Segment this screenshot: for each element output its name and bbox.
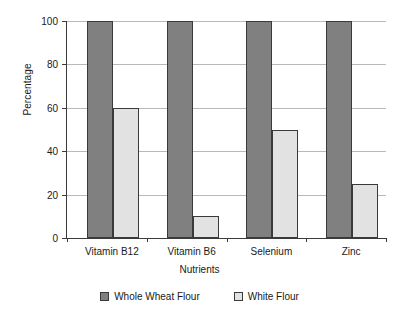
y-tick-label: 80 xyxy=(47,59,58,70)
y-tick-mark xyxy=(62,108,67,109)
x-tick-label: Vitamin B12 xyxy=(85,246,139,257)
bar-group xyxy=(246,21,298,238)
legend: Whole Wheat FlourWhite Flour xyxy=(0,291,399,302)
bar-group xyxy=(167,21,219,238)
x-tick-mark xyxy=(147,238,148,242)
bar[interactable] xyxy=(193,216,219,238)
y-tick-label: 40 xyxy=(47,146,58,157)
bar-group xyxy=(326,21,378,238)
legend-item[interactable]: White Flour xyxy=(234,291,299,302)
bar[interactable] xyxy=(113,108,139,238)
bar-chart: Percentage 020406080100 Vitamin B12Vitam… xyxy=(0,0,399,330)
y-tick-mark xyxy=(62,21,67,22)
bar[interactable] xyxy=(167,21,193,238)
x-tick-mark xyxy=(386,238,387,242)
bar[interactable] xyxy=(246,21,272,238)
x-axis-title: Nutrients xyxy=(0,264,399,275)
y-tick-label: 20 xyxy=(47,189,58,200)
bar-group xyxy=(87,21,139,238)
legend-label: Whole Wheat Flour xyxy=(114,291,200,302)
y-tick-label: 60 xyxy=(47,102,58,113)
x-tick-mark xyxy=(67,238,68,242)
x-tick-label: Zinc xyxy=(342,246,361,257)
x-tick-label: Selenium xyxy=(251,246,293,257)
y-axis-title: Percentage xyxy=(22,35,33,145)
x-tick-mark xyxy=(306,238,307,242)
bar[interactable] xyxy=(352,184,378,238)
y-tick-mark xyxy=(62,195,67,196)
x-tick-label: Vitamin B6 xyxy=(168,246,216,257)
bar[interactable] xyxy=(87,21,113,238)
bar[interactable] xyxy=(272,130,298,239)
legend-swatch xyxy=(100,292,109,301)
legend-swatch xyxy=(234,292,243,301)
bar[interactable] xyxy=(326,21,352,238)
legend-label: White Flour xyxy=(248,291,299,302)
plot-area: 020406080100 xyxy=(66,21,386,239)
legend-item[interactable]: Whole Wheat Flour xyxy=(100,291,200,302)
y-tick-mark xyxy=(62,64,67,65)
y-tick-label: 100 xyxy=(41,16,58,27)
y-tick-label: 0 xyxy=(52,233,58,244)
x-tick-mark xyxy=(227,238,228,242)
y-tick-mark xyxy=(62,151,67,152)
